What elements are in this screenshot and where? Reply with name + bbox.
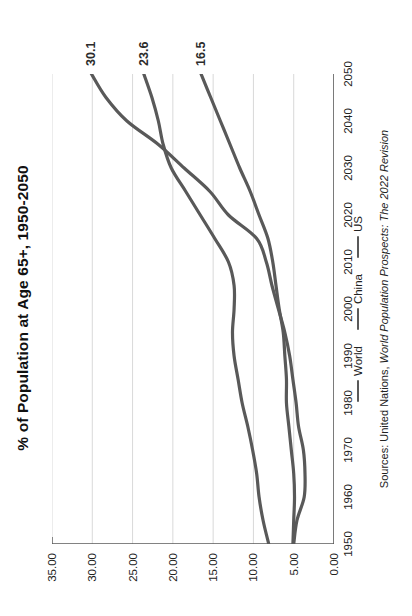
chart-legend: WorldChinaUS [352,74,364,544]
y-axis-tick-label: 35.00 [46,553,58,582]
legend-label: World [352,346,364,376]
source-publication: World Population Prospects: The 2022 Rev… [378,130,390,364]
series-end-label: 16.5 [194,42,208,66]
legend-item: US [352,216,364,258]
axis-ticks [52,74,334,544]
legend-item: World [352,346,364,402]
chart-title: % of Population at Age 65+, 1950-2050 [14,0,32,616]
source-prefix: Sources: United Nations, [378,363,390,488]
legend-label: US [352,216,364,232]
legend-line-icon [357,308,360,330]
y-axis-tick-label: 20.00 [167,553,179,582]
chart-figure: % of Population at Age 65+, 1950-2050 0.… [0,0,412,616]
y-axis-tick-label: 15.00 [207,553,219,582]
legend-label: China [352,274,364,304]
chart-svg [52,74,334,544]
legend-item: China [352,274,364,330]
series-end-label: 30.1 [84,42,98,66]
y-axis-tick-label: 5.00 [288,553,300,575]
y-axis-tick-label: 10.00 [247,553,259,582]
legend-line-icon [357,380,360,402]
y-axis-tick-label: 25.00 [127,553,139,582]
axis-lines [52,74,334,544]
plot-area: 0.005.0010.0015.0020.0025.0030.0035.00 1… [52,74,334,544]
y-axis-tick-label: 0.00 [328,553,340,575]
legend-line-icon [357,236,360,258]
series-end-label: 23.6 [137,42,151,66]
source-note: Sources: United Nations, World Populatio… [378,74,390,544]
y-axis-tick-label: 30.00 [86,553,98,582]
series-lines [91,74,305,544]
